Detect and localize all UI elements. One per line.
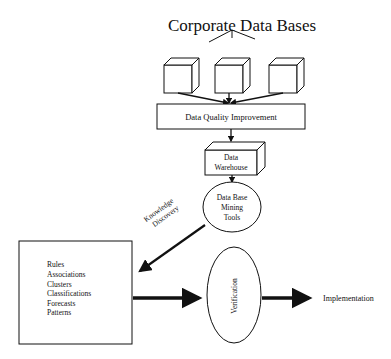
knowledge-discovery-label: Knowledge Discovery — [142, 196, 181, 231]
verification-label: Verification — [230, 278, 239, 314]
database-cube-3 — [269, 58, 304, 93]
warehouse-label-line2: Warehouse — [214, 163, 248, 172]
result-item: Associations — [47, 270, 85, 279]
result-item: Clusters — [47, 280, 72, 289]
warehouse-label-line1: Data — [224, 153, 239, 162]
result-item: Patterns — [47, 308, 71, 317]
knowledge-discovery-arrow — [140, 225, 205, 271]
result-item: Forecasts — [47, 299, 75, 308]
mining-label-line2: Mining — [221, 203, 243, 212]
data-quality-label: Data Quality Improvement — [185, 112, 277, 122]
diagram-title: Corporate Data Bases — [168, 16, 316, 35]
cube-to-quality-arrows — [178, 93, 283, 103]
mining-label-line3: Tools — [224, 213, 241, 222]
implementation-label: Implementation — [323, 294, 374, 303]
database-cube-1 — [164, 58, 199, 93]
database-cube-2 — [215, 58, 250, 93]
result-item: Rules — [47, 260, 64, 269]
mining-label-line1: Data Base — [217, 193, 248, 202]
result-item: Classifications — [47, 289, 91, 298]
data-mining-diagram: Corporate Data Bases Data Quality Improv… — [0, 0, 391, 359]
